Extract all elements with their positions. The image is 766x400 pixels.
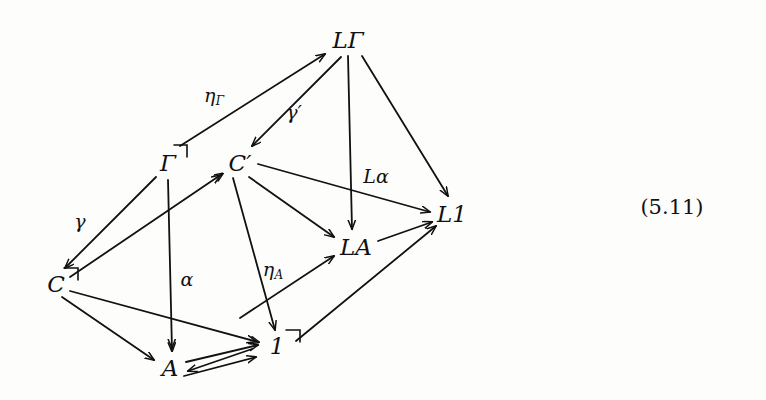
- node-one: 1: [270, 335, 285, 358]
- edge-c-to-cprime: [70, 174, 222, 277]
- edge-label-gamma-prime: γ′: [286, 103, 302, 122]
- edge-gamma-to-a: [168, 180, 172, 350]
- edge-label-gamma: γ: [74, 212, 85, 231]
- edge-la-to-l1: [378, 222, 432, 241]
- edge-label-alpha: α: [181, 270, 194, 289]
- node-lgamma: LΓ: [332, 29, 363, 52]
- node-l1: L1: [437, 203, 467, 226]
- edge-cprime-to-l1: [258, 164, 430, 212]
- edge-gamma-to-lgamma: [180, 54, 325, 146]
- edge-a-to-la: [240, 256, 334, 318]
- edge-lgamma-to-la: [348, 56, 352, 229]
- node-a: A: [162, 357, 179, 380]
- edge-cprime-to-one: [233, 178, 275, 330]
- edge-label-eta-gamma: ηΓ: [204, 86, 224, 107]
- node-c: C: [47, 273, 65, 296]
- edge-cprime-to-la: [249, 177, 334, 237]
- node-cprime: C′: [229, 152, 252, 175]
- edge-label-l-alpha: Lα: [363, 167, 388, 186]
- edge-c-to-a: [62, 297, 154, 360]
- edge-c-to-one: [70, 291, 258, 342]
- node-la: LA: [340, 236, 372, 259]
- node-gamma: Γ: [160, 152, 176, 175]
- figure-canvas: LΓ Γ C′ L1 LA C 1 A ηΓ γ′ Lα γ α ηA (5.1…: [0, 0, 766, 400]
- equation-number: (5.11): [640, 195, 703, 219]
- edge-label-eta-a: ηA: [263, 260, 284, 281]
